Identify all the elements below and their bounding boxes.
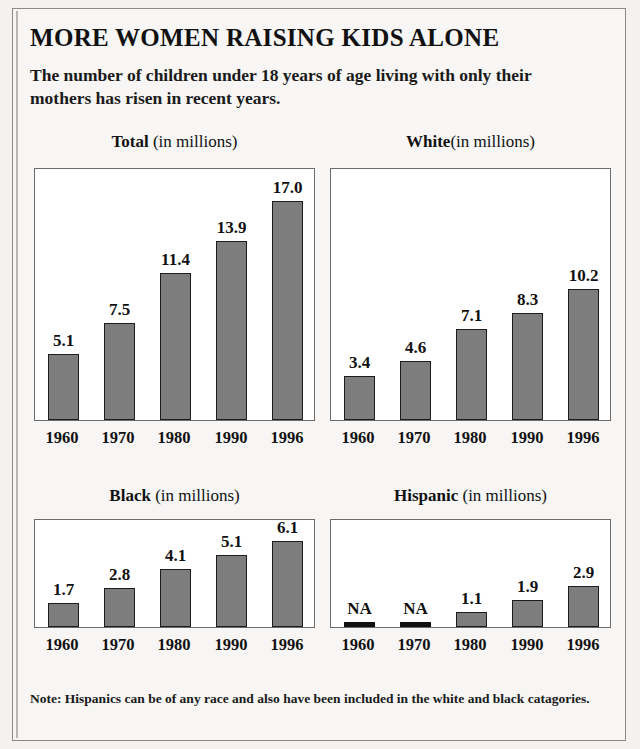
chart-title-hispanic: Hispanic (in millions): [330, 486, 611, 506]
bar-value-label-hispanic-1990: 1.9: [496, 577, 559, 597]
bar-value-label-total-1996: 17.0: [256, 178, 319, 198]
bar-column-black-1960: 1.7: [48, 520, 79, 627]
bar-white-1996: [568, 289, 599, 420]
x-tick-total-1960: 1960: [34, 428, 90, 448]
bar-column-black-1980: 4.1: [160, 520, 191, 627]
infographic-page: MORE WOMEN RAISING KIDS ALONE The number…: [0, 0, 640, 749]
bar-column-total-1960: 5.1: [48, 169, 79, 420]
page-subtitle: The number of children under 18 years of…: [30, 64, 578, 110]
bar-value-label-white-1990: 8.3: [496, 290, 559, 310]
x-tick-black-1990: 1990: [203, 635, 259, 655]
x-tick-black-1970: 1970: [90, 635, 146, 655]
plot-area-white: 3.44.67.18.310.2: [330, 168, 611, 421]
bar-black-1996: [272, 541, 303, 627]
bar-column-white-1996: 10.2: [568, 169, 599, 420]
chart-title-black: Black (in millions): [34, 486, 315, 506]
chart-panel-hispanic: Hispanic (in millions)NANA1.11.92.919601…: [330, 486, 611, 659]
bar-total-1990: [216, 241, 247, 420]
bar-column-total-1970: 7.5: [104, 169, 135, 420]
chart-title-unit-hispanic: (in millions): [458, 486, 547, 505]
x-tick-white-1990: 1990: [499, 428, 555, 448]
x-tick-hispanic-1960: 1960: [330, 635, 386, 655]
bar-value-label-white-1980: 7.1: [440, 306, 503, 326]
bar-hispanic-1970: [400, 622, 431, 627]
bar-value-label-white-1970: 4.6: [384, 338, 447, 358]
bar-column-hispanic-1990: 1.9: [512, 520, 543, 627]
bar-value-label-total-1960: 5.1: [32, 331, 95, 351]
bar-column-white-1990: 8.3: [512, 169, 543, 420]
bar-value-label-black-1990: 5.1: [200, 532, 263, 552]
bar-white-1970: [400, 361, 431, 420]
x-tick-white-1980: 1980: [442, 428, 498, 448]
chart-panel-white: White(in millions)3.44.67.18.310.2196019…: [330, 132, 611, 452]
bar-value-label-white-1960: 3.4: [328, 353, 391, 373]
bar-total-1996: [272, 201, 303, 420]
bar-column-hispanic-1980: 1.1: [456, 520, 487, 627]
chart-panel-black: Black (in millions)1.72.84.15.16.1196019…: [34, 486, 315, 659]
x-tick-black-1996: 1996: [259, 635, 315, 655]
bar-hispanic-1990: [512, 600, 543, 627]
bar-column-total-1980: 11.4: [160, 169, 191, 420]
bar-black-1970: [104, 588, 135, 627]
bar-column-hispanic-1960: NA: [344, 520, 375, 627]
bar-value-label-hispanic-1996: 2.9: [552, 563, 615, 583]
bar-value-label-hispanic-1970: NA: [384, 599, 447, 619]
footnote: Note: Hispanics can be of any race and a…: [30, 690, 590, 708]
bar-series-hispanic: NANA1.11.92.9: [331, 520, 610, 627]
x-tick-white-1996: 1996: [555, 428, 611, 448]
x-tick-black-1980: 1980: [146, 635, 202, 655]
bar-value-label-total-1970: 7.5: [88, 300, 151, 320]
bar-series-white: 3.44.67.18.310.2: [331, 169, 610, 420]
bar-series-black: 1.72.84.15.16.1: [35, 520, 314, 627]
x-tick-hispanic-1980: 1980: [442, 635, 498, 655]
bar-hispanic-1996: [568, 586, 599, 627]
bar-column-hispanic-1996: 2.9: [568, 520, 599, 627]
bar-column-hispanic-1970: NA: [400, 520, 431, 627]
chart-title-category-total: Total: [112, 132, 149, 151]
bar-value-label-total-1980: 11.4: [144, 250, 207, 270]
bar-value-label-hispanic-1960: NA: [328, 599, 391, 619]
bar-column-black-1970: 2.8: [104, 520, 135, 627]
plot-area-black: 1.72.84.15.16.1: [34, 519, 315, 628]
chart-title-total: Total (in millions): [34, 132, 315, 152]
bar-white-1980: [456, 329, 487, 420]
bar-white-1990: [512, 313, 543, 420]
plot-area-total: 5.17.511.413.917.0: [34, 168, 315, 421]
bar-column-total-1990: 13.9: [216, 169, 247, 420]
chart-title-unit-black: (in millions): [151, 486, 240, 505]
bar-value-label-black-1980: 4.1: [144, 546, 207, 566]
bar-value-label-black-1960: 1.7: [32, 580, 95, 600]
bar-hispanic-1980: [456, 612, 487, 627]
x-tick-black-1960: 1960: [34, 635, 90, 655]
bar-value-label-white-1996: 10.2: [552, 266, 615, 286]
plot-area-hispanic: NANA1.11.92.9: [330, 519, 611, 628]
bar-value-label-black-1996: 6.1: [256, 518, 319, 538]
x-tick-white-1960: 1960: [330, 428, 386, 448]
bar-value-label-black-1970: 2.8: [88, 565, 151, 585]
bar-total-1970: [104, 323, 135, 420]
bar-black-1960: [48, 603, 79, 627]
bar-hispanic-1960: [344, 622, 375, 627]
bar-value-label-hispanic-1980: 1.1: [440, 589, 503, 609]
bar-value-label-total-1990: 13.9: [200, 218, 263, 238]
x-tick-hispanic-1990: 1990: [499, 635, 555, 655]
chart-title-category-black: Black: [109, 486, 151, 505]
x-tick-total-1970: 1970: [90, 428, 146, 448]
bar-column-white-1960: 3.4: [344, 169, 375, 420]
chart-title-category-white: White: [406, 132, 450, 151]
x-tick-total-1980: 1980: [146, 428, 202, 448]
bar-total-1980: [160, 273, 191, 420]
chart-title-unit-total: (in millions): [149, 132, 238, 151]
bar-black-1980: [160, 569, 191, 627]
bar-black-1990: [216, 555, 247, 627]
bar-column-black-1996: 6.1: [272, 520, 303, 627]
x-tick-total-1990: 1990: [203, 428, 259, 448]
bar-total-1960: [48, 354, 79, 420]
x-tick-total-1996: 1996: [259, 428, 315, 448]
chart-title-category-hispanic: Hispanic: [394, 486, 458, 505]
chart-title-white: White(in millions): [330, 132, 611, 152]
bar-column-total-1996: 17.0: [272, 169, 303, 420]
bar-white-1960: [344, 376, 375, 420]
chart-panel-total: Total (in millions)5.17.511.413.917.0196…: [34, 132, 315, 452]
bar-column-white-1980: 7.1: [456, 169, 487, 420]
